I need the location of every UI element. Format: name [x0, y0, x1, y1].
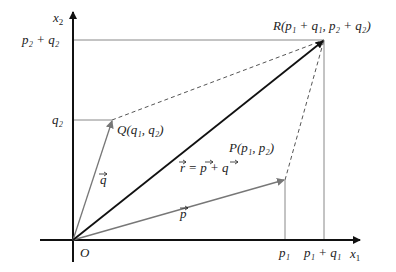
tick-x-p1-plus-q1: p₁ + q₁ — [303, 245, 341, 260]
vector-r-equation: r = p + q — [179, 160, 238, 175]
x-axis-label: x1 — [349, 246, 360, 263]
point-r-label: R(p₁ + q₁, p₂ + q₂) — [272, 18, 371, 33]
point-q-label: Q(q₁, q₂) — [117, 122, 164, 137]
svg-text:r = p + q: r = p + q — [180, 160, 229, 175]
y-axis-label: x2 — [52, 10, 63, 27]
vector-q-label: q — [99, 172, 107, 187]
vector-p — [73, 180, 284, 240]
vector-diagram: x2 x1 O p₂ + q₂ q₂ p₁ p₁ + q₁ Q(q₁, q₂) … — [0, 0, 396, 272]
dashed-q-to-r — [112, 40, 324, 120]
tick-x-p1: p₁ — [278, 245, 290, 260]
tick-y-p2-plus-q2: p₂ + q₂ — [21, 32, 60, 47]
diagram-canvas: x2 x1 O p₂ + q₂ q₂ p₁ p₁ + q₁ Q(q₁, q₂) … — [0, 0, 396, 272]
origin-label: O — [80, 245, 90, 260]
vector-p-label: p — [179, 206, 188, 221]
point-p-label: P(p₁, p₂) — [228, 140, 274, 155]
dashed-sides — [112, 40, 324, 180]
tick-y-q2: q₂ — [52, 112, 64, 127]
dashed-p-to-r — [285, 40, 324, 180]
